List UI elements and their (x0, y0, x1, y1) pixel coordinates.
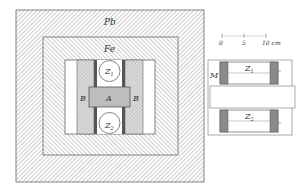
side-sample (210, 86, 295, 108)
scale-bar: 0 5 10 cm (219, 33, 281, 46)
label-m: M (209, 71, 219, 80)
label-pb: Pb (103, 17, 116, 27)
label-b-left: B (79, 94, 86, 103)
svg-text:5: 5 (242, 39, 246, 46)
svg-text:0: 0 (219, 39, 223, 46)
label-b-right: B (132, 94, 139, 103)
label-a: A (105, 94, 112, 103)
label-fe: Fe (103, 44, 115, 54)
svg-text:10 cm: 10 cm (262, 39, 281, 46)
left-cross-section: Pb Fe B B A Z1 Z2 (16, 10, 204, 182)
right-side-view: 0 5 10 cm M Z1 Z2 (208, 33, 295, 135)
diagram: Pb Fe B B A Z1 Z2 0 5 10 cm (0, 0, 308, 194)
